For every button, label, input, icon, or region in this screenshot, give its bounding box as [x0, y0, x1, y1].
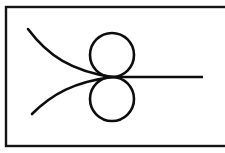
figure-canvas — [0, 0, 225, 153]
figure-container — [0, 0, 225, 153]
